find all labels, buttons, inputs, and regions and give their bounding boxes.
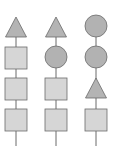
square-shape bbox=[45, 109, 67, 131]
square-shape bbox=[45, 78, 67, 100]
triangle-shape bbox=[86, 78, 107, 98]
column-1 bbox=[5, 17, 27, 146]
triangle-shape bbox=[46, 17, 67, 37]
circle-shape bbox=[85, 15, 107, 37]
column-2 bbox=[45, 17, 67, 146]
circle-shape bbox=[85, 46, 107, 68]
shape-sequence-diagram bbox=[0, 0, 117, 156]
square-shape bbox=[85, 109, 107, 131]
circle-shape bbox=[45, 46, 67, 68]
square-shape bbox=[5, 47, 27, 69]
square-shape bbox=[5, 78, 27, 100]
square-shape bbox=[5, 109, 27, 131]
column-3 bbox=[85, 15, 107, 146]
triangle-shape bbox=[6, 17, 27, 37]
